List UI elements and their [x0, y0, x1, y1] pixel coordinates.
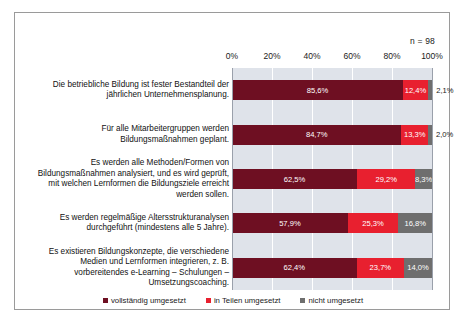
legend-swatch-icon [206, 298, 211, 303]
legend-label: nicht umgesetzt [308, 296, 363, 305]
legend-label: in Teilen umgesetzt [214, 296, 281, 305]
bar-row[interactable]: 62,5%29,2%8,3% [232, 169, 432, 189]
category-label: Es existieren Bildungskonzepte, die vers… [33, 247, 229, 289]
chart-legend: vollständig umgesetztin Teilen umgesetzt… [15, 296, 451, 305]
x-tick-label: 80% [372, 51, 412, 61]
legend-swatch-icon [300, 298, 305, 303]
x-tick-label: 20% [252, 51, 292, 61]
bar-segment[interactable]: 23,7% [357, 258, 404, 278]
x-tick-label: 60% [332, 51, 372, 61]
category-label: Für alle Mitarbeitergruppen werden Bildu… [33, 124, 229, 145]
legend-item[interactable]: vollständig umgesetzt [103, 296, 186, 305]
category-label: Es werden regelmäßige Altersstrukturanal… [33, 213, 229, 234]
bar-segment[interactable]: 12,4% [403, 80, 428, 100]
bar-segment[interactable]: 13,3% [401, 125, 428, 145]
category-label: Die betriebliche Bildung ist fester Best… [33, 80, 229, 101]
legend-item[interactable]: nicht umgesetzt [300, 296, 363, 305]
bar-row[interactable]: 57,9%25,3%16,8% [232, 213, 432, 233]
bar-segment[interactable]: 62,5% [232, 169, 357, 189]
chart-figure: n = 98 0%20%40%60%80%100% Die betrieblic… [14, 12, 450, 310]
category-label: Es werden alle Methoden/Formen von Bildu… [33, 158, 229, 200]
legend-item[interactable]: in Teilen umgesetzt [206, 296, 281, 305]
x-tick-label: 0% [212, 51, 252, 61]
sample-size-note: n = 98 [335, 36, 435, 46]
legend-label: vollständig umgesetzt [111, 296, 186, 305]
bar-segment[interactable]: 25,3% [348, 213, 399, 233]
bar-segment-value-label: 2,0% [432, 125, 453, 145]
bar-segment[interactable]: 84,7% [232, 125, 401, 145]
bar-segment[interactable]: 57,9% [232, 213, 348, 233]
bar-segment[interactable]: 85,6% [232, 80, 403, 100]
x-tick-label: 40% [292, 51, 332, 61]
bar-segment[interactable]: 62,4% [232, 258, 357, 278]
bar-row[interactable]: 85,6%12,4%2,1% [232, 80, 432, 100]
bar-segment[interactable]: 14,0% [404, 258, 432, 278]
bar-segment[interactable]: 8,3% [415, 169, 432, 189]
plot-area: 85,6%12,4%2,1%84,7%13,3%2,0%62,5%29,2%8,… [232, 68, 433, 290]
x-tick-label: 100% [412, 51, 452, 61]
bar-row[interactable]: 62,4%23,7%14,0% [232, 258, 432, 278]
bar-segment[interactable]: 16,8% [398, 213, 432, 233]
legend-swatch-icon [103, 298, 108, 303]
bar-row[interactable]: 84,7%13,3%2,0% [232, 125, 432, 145]
bar-segment[interactable]: 29,2% [357, 169, 415, 189]
x-axis-tick-labels: 0%20%40%60%80%100% [218, 51, 448, 65]
bar-segment-value-label: 2,1% [432, 80, 453, 100]
category-labels: Die betriebliche Bildung ist fester Best… [29, 68, 229, 290]
